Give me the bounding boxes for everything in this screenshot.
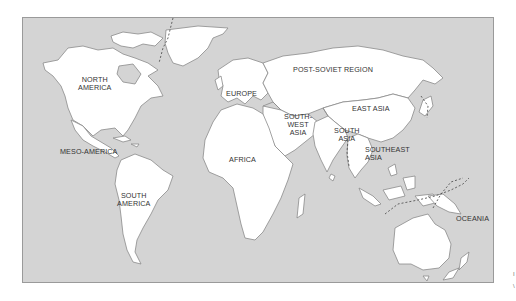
label-line: AMERICA	[78, 84, 111, 92]
label-east-asia: EAST ASIA	[352, 105, 390, 113]
south-america-shape	[115, 154, 173, 264]
label-post-soviet: POST-SOVIET REGION	[293, 66, 373, 74]
greenland-shape	[165, 26, 228, 66]
label-line: ASIA	[365, 154, 410, 162]
caribbean-islands-shape	[113, 136, 139, 147]
world-map: NORTH AMERICA MESO-AMERICA SOUTH AMERICA…	[22, 17, 494, 283]
label-southeast-asia: SOUTHEAST ASIA	[365, 146, 410, 162]
label-line: ASIA	[334, 135, 360, 143]
label-africa: AFRICA	[229, 156, 256, 164]
label-line: ASIA	[284, 129, 312, 137]
indonesia-shape	[359, 164, 439, 206]
label-line: AFRICA	[229, 156, 256, 164]
label-line: EUROPE	[226, 90, 257, 98]
label-oceania: OCEANIA	[456, 215, 489, 223]
australia-shape	[393, 214, 451, 270]
label-line: AMERICA	[117, 200, 150, 208]
japan-shape	[419, 96, 433, 116]
label-south-asia: SOUTH ASIA	[334, 127, 360, 143]
madagascar-shape	[297, 194, 305, 218]
edge-mark-top: I	[513, 271, 515, 278]
label-europe: EUROPE	[226, 90, 257, 98]
label-south-america: SOUTH AMERICA	[117, 192, 150, 208]
edge-mark-bottom: \	[513, 283, 515, 290]
label-southwest-asia: SOUTH- WEST ASIA	[284, 113, 312, 137]
label-meso-america: MESO-AMERICA	[60, 148, 118, 156]
label-north-america: NORTH AMERICA	[78, 76, 111, 92]
label-line: OCEANIA	[456, 215, 489, 223]
label-line: MESO-AMERICA	[60, 148, 118, 156]
arctic-islands-shape	[111, 32, 163, 48]
label-line: POST-SOVIET REGION	[293, 66, 373, 74]
new-guinea-shape	[428, 194, 461, 214]
label-line: EAST ASIA	[352, 105, 390, 113]
british-isles-shape	[215, 76, 223, 90]
